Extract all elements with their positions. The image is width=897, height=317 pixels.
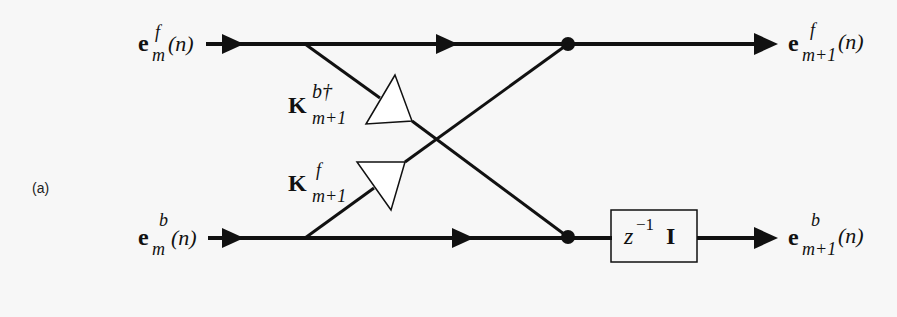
output-arrow-icon [754,227,778,249]
arrow-icon [436,34,458,54]
input-backward-error-label: e b m (n) [138,222,208,262]
forward-reflection-coefficient-label: K f m+1 [288,170,358,215]
output-forward-error-label: e f m+1 (n) [788,28,888,68]
delay-block-label: z −1 I [624,221,694,255]
output-arrow-icon [754,33,778,55]
output-backward-error-label: e b m+1 (n) [788,222,888,262]
kf-output-branch [405,44,568,162]
lattice-stage-diagram: (a) e f m (n) e b m (n) e f m+1 (n) e b … [0,0,897,317]
arrow-icon [222,228,244,248]
kf-gain-triangle [357,162,405,210]
arrow-icon [222,34,244,54]
panel-label: (a) [32,180,49,196]
input-forward-error-label: e f m (n) [138,28,208,68]
signal-flow-graph [0,0,897,317]
kb-gain-triangle [366,75,412,124]
backward-reflection-coefficient-label: K b† m+1 [288,92,358,137]
arrow-icon [452,228,474,248]
